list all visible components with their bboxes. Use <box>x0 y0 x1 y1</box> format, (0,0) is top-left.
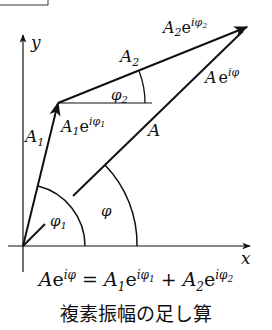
frame-fragment <box>0 0 48 5</box>
a-label: A <box>146 120 160 140</box>
y-axis-label: y <box>30 32 41 52</box>
a1-label: A1 <box>23 126 44 149</box>
a-tip-label: Aeiφ <box>203 66 240 87</box>
phi2-label: φ2 <box>111 86 128 105</box>
a2-label: A2 <box>118 46 139 69</box>
phi2-arc <box>139 71 145 103</box>
x-axis-label: x <box>241 248 251 268</box>
phi-label: φ <box>101 202 112 220</box>
phi1-label: φ1 <box>50 212 67 231</box>
a2-tip-label: A2eiφ2 <box>161 16 207 39</box>
equation-caption: Aeiφ = A1eiφ1 + A2eiφ2 <box>0 268 272 294</box>
a1-tip-label: A1eiφ1 <box>59 115 105 138</box>
phi1-arc <box>38 186 85 246</box>
vector-a2 <box>58 27 247 103</box>
caption-title: 複素振幅の足し算 <box>0 299 272 326</box>
